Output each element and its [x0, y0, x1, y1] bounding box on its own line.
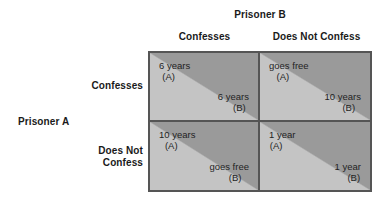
- payoff-player-b: 1 year (B): [335, 161, 361, 183]
- payoff-amount: 10 years: [159, 129, 195, 140]
- payoff-player-tag: (A): [269, 140, 295, 151]
- row-header-confesses: Confesses: [23, 80, 143, 92]
- matrix-cell-confess-notconfess: goes free (A) 10 years (B): [260, 53, 370, 122]
- payoff-player-tag: (A): [269, 71, 309, 82]
- payoff-player-tag: (B): [335, 172, 361, 183]
- payoff-player-a: goes free (A): [269, 60, 309, 82]
- column-player-label: Prisoner B: [148, 9, 372, 20]
- row-header-does-not-confess: Does Not Confess: [23, 145, 143, 169]
- payoff-amount: 1 year: [335, 161, 361, 172]
- row-header-does-not-confess-line2: Confess: [103, 157, 143, 168]
- payoff-player-b: 10 years (B): [325, 91, 361, 113]
- column-header-confesses: Confesses: [148, 31, 261, 42]
- payoff-amount: 10 years: [325, 91, 361, 102]
- payoff-amount: goes free: [269, 60, 309, 71]
- matrix-cell-confess-confess: 6 years (A) 6 years (B): [150, 53, 260, 122]
- payoff-player-tag: (B): [209, 172, 249, 183]
- row-header-does-not-confess-line1: Does Not: [98, 145, 143, 156]
- payoff-player-a: 1 year (A): [269, 129, 295, 151]
- payoff-player-a: 10 years (A): [159, 129, 195, 151]
- payoff-matrix-figure: Prisoner B Confesses Does Not Confess Pr…: [0, 0, 390, 212]
- payoff-player-b: 6 years (B): [218, 91, 249, 113]
- payoff-amount: 1 year: [269, 129, 295, 140]
- matrix-cell-notconfess-notconfess: 1 year (A) 1 year (B): [260, 122, 370, 191]
- payoff-amount: 6 years: [218, 91, 249, 102]
- row-player-label: Prisoner A: [18, 116, 69, 127]
- matrix-cell-notconfess-confess: 10 years (A) goes free (B): [150, 122, 260, 191]
- payoff-matrix-grid: 6 years (A) 6 years (B) goes free (A) 10…: [148, 51, 372, 192]
- payoff-amount: goes free: [209, 161, 249, 172]
- payoff-player-a: 6 years (A): [159, 60, 190, 82]
- row-header-confesses-line1: Confesses: [92, 80, 143, 91]
- payoff-player-tag: (B): [218, 102, 249, 113]
- payoff-player-tag: (A): [159, 140, 195, 151]
- payoff-amount: 6 years: [159, 60, 190, 71]
- payoff-player-tag: (B): [325, 102, 361, 113]
- payoff-player-tag: (A): [159, 71, 190, 82]
- column-header-does-not-confess: Does Not Confess: [261, 31, 372, 42]
- payoff-player-b: goes free (B): [209, 161, 249, 183]
